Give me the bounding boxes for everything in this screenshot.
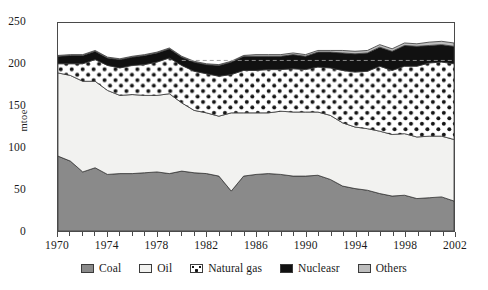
x-tick-mark bbox=[69, 232, 70, 236]
x-tick-mark bbox=[157, 232, 158, 237]
x-tick-mark bbox=[219, 232, 220, 236]
x-tick-mark bbox=[256, 232, 257, 237]
stacked-area-chart: mtoe 050100150200250 1970197419781982198… bbox=[0, 0, 488, 290]
legend-swatch-oil-icon bbox=[139, 264, 152, 273]
x-tick-mark bbox=[181, 232, 182, 236]
x-tick-mark bbox=[380, 232, 381, 236]
x-tick-mark bbox=[194, 232, 195, 236]
x-tick-mark bbox=[57, 232, 58, 237]
x-tick-mark bbox=[318, 232, 319, 236]
legend-item[interactable]: Coal bbox=[81, 262, 121, 274]
x-tick-mark bbox=[393, 232, 394, 236]
area-series-layer bbox=[58, 23, 454, 231]
x-tick-mark bbox=[418, 232, 419, 236]
x-tick-mark bbox=[405, 232, 406, 237]
legend-item[interactable]: Others bbox=[358, 262, 407, 274]
legend-label: Oil bbox=[157, 262, 172, 274]
x-tick-label: 1982 bbox=[183, 239, 229, 251]
legend-swatch-others-icon bbox=[358, 264, 371, 273]
x-tick-mark bbox=[343, 232, 344, 236]
legend-item[interactable]: Oil bbox=[139, 262, 172, 274]
x-tick-mark bbox=[107, 232, 108, 237]
legend-label: Natural gas bbox=[208, 262, 262, 274]
x-tick-label: 1986 bbox=[233, 239, 279, 251]
x-tick-label: 1998 bbox=[382, 239, 428, 251]
legend-item[interactable]: Nucleasr bbox=[280, 262, 340, 274]
x-tick-label: 1990 bbox=[283, 239, 329, 251]
x-tick-label: 1994 bbox=[333, 239, 379, 251]
legend-swatch-coal-icon bbox=[81, 264, 94, 273]
x-tick-mark bbox=[281, 232, 282, 236]
y-tick-label: 50 bbox=[0, 184, 26, 196]
y-tick-label: 0 bbox=[0, 226, 26, 238]
x-tick-label: 1974 bbox=[84, 239, 130, 251]
x-tick-mark bbox=[368, 232, 369, 236]
x-tick-mark bbox=[144, 232, 145, 236]
x-tick-mark bbox=[268, 232, 269, 236]
y-tick-label: 100 bbox=[0, 142, 26, 154]
legend-item[interactable]: Natural gas bbox=[190, 262, 262, 274]
x-tick-mark bbox=[94, 232, 95, 236]
x-tick-label: 1978 bbox=[134, 239, 180, 251]
x-tick-label: 1970 bbox=[34, 239, 80, 251]
x-tick-mark bbox=[82, 232, 83, 236]
y-tick-label: 200 bbox=[0, 58, 26, 70]
legend-swatch-nuclear-icon bbox=[280, 264, 293, 273]
x-tick-label: 2002 bbox=[432, 239, 478, 251]
chart-legend: CoalOilNatural gasNucleasrOthers bbox=[0, 262, 488, 274]
y-tick-label: 250 bbox=[0, 16, 26, 28]
plot-area bbox=[57, 22, 455, 232]
y-tick-label: 150 bbox=[0, 100, 26, 112]
x-tick-mark bbox=[244, 232, 245, 236]
x-tick-mark bbox=[356, 232, 357, 237]
legend-label: Others bbox=[376, 262, 407, 274]
x-tick-mark bbox=[132, 232, 133, 236]
legend-swatch-natural-gas-icon bbox=[190, 264, 203, 273]
x-tick-mark bbox=[455, 232, 456, 237]
legend-label: Coal bbox=[99, 262, 121, 274]
x-tick-mark bbox=[206, 232, 207, 237]
legend-label: Nucleasr bbox=[298, 262, 340, 274]
x-tick-mark bbox=[169, 232, 170, 236]
x-tick-mark bbox=[231, 232, 232, 236]
x-tick-mark bbox=[430, 232, 431, 236]
x-tick-mark bbox=[293, 232, 294, 236]
x-tick-mark bbox=[306, 232, 307, 237]
x-tick-mark bbox=[331, 232, 332, 236]
x-tick-mark bbox=[119, 232, 120, 236]
x-tick-mark bbox=[443, 232, 444, 236]
